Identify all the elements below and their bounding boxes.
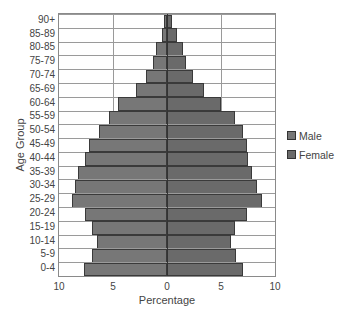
y-tick-label: 85-89 bbox=[29, 28, 55, 39]
y-tick-label: 60-64 bbox=[29, 97, 55, 108]
female-bar bbox=[167, 235, 231, 249]
legend: MaleFemale bbox=[287, 126, 334, 164]
male-bar bbox=[84, 263, 167, 277]
x-tick-label: 0 bbox=[164, 281, 170, 292]
female-bar bbox=[167, 221, 235, 235]
y-tick-label: 90+ bbox=[38, 14, 55, 25]
y-tick-label: 15-19 bbox=[29, 221, 55, 232]
legend-swatch-icon bbox=[287, 150, 296, 159]
male-bar bbox=[156, 42, 167, 56]
legend-label: Female bbox=[299, 149, 334, 161]
male-bar bbox=[92, 249, 167, 263]
y-tick-label: 10-14 bbox=[29, 235, 55, 246]
male-bar bbox=[92, 221, 167, 235]
population-pyramid-chart: 90+85-8980-8575-7970-7465-6960-6455-5950… bbox=[0, 0, 337, 312]
female-bar bbox=[167, 152, 248, 166]
female-bar bbox=[167, 180, 257, 194]
male-bar bbox=[146, 70, 167, 84]
male-bar bbox=[109, 111, 167, 125]
y-tick-label: 40-44 bbox=[29, 152, 55, 163]
y-tick-label: 5-9 bbox=[41, 248, 55, 259]
male-bar bbox=[118, 97, 167, 111]
y-tick-label: 75-79 bbox=[29, 55, 55, 66]
y-tick-label: 30-34 bbox=[29, 179, 55, 190]
y-tick-label: 25-29 bbox=[29, 193, 55, 204]
y-tick-label: 80-85 bbox=[29, 41, 55, 52]
female-bar bbox=[167, 42, 183, 56]
female-bar bbox=[167, 28, 177, 42]
male-bar bbox=[153, 56, 167, 70]
male-bar bbox=[89, 139, 167, 153]
male-bar bbox=[75, 180, 167, 194]
female-bar bbox=[167, 97, 221, 111]
female-bar bbox=[167, 208, 247, 222]
y-tick-label: 70-74 bbox=[29, 69, 55, 80]
female-bar bbox=[167, 125, 243, 139]
female-bar bbox=[167, 111, 235, 125]
y-tick-label: 45-49 bbox=[29, 138, 55, 149]
female-bar bbox=[167, 70, 193, 84]
y-axis-title: Age Group bbox=[14, 118, 26, 171]
male-bar bbox=[99, 125, 167, 139]
legend-swatch-icon bbox=[287, 131, 296, 140]
x-tick-label: 10 bbox=[269, 281, 280, 292]
male-bar bbox=[85, 208, 167, 222]
x-axis-title: Percentage bbox=[139, 294, 195, 306]
plot-area bbox=[58, 13, 276, 277]
male-bar bbox=[72, 194, 167, 208]
legend-label: Male bbox=[299, 130, 322, 142]
x-tick-label: 10 bbox=[53, 281, 64, 292]
male-bar bbox=[78, 166, 167, 180]
female-bar bbox=[167, 166, 252, 180]
legend-item: Male bbox=[287, 126, 334, 145]
female-bar bbox=[167, 263, 243, 277]
y-tick-label: 20-24 bbox=[29, 207, 55, 218]
x-tick-label: 5 bbox=[110, 281, 116, 292]
male-bar bbox=[136, 83, 167, 97]
female-bar bbox=[167, 56, 186, 70]
female-bar bbox=[167, 249, 236, 263]
legend-item: Female bbox=[287, 145, 334, 164]
y-tick-label: 65-69 bbox=[29, 83, 55, 94]
female-bar bbox=[167, 194, 262, 208]
male-bar bbox=[97, 235, 167, 249]
zero-axis-line bbox=[167, 14, 168, 276]
y-tick-label: 0-4 bbox=[41, 262, 55, 273]
y-tick-label: 50-54 bbox=[29, 124, 55, 135]
x-tick-label: 5 bbox=[218, 281, 224, 292]
y-tick-label: 35-39 bbox=[29, 166, 55, 177]
y-tick-label: 55-59 bbox=[29, 110, 55, 121]
female-bar bbox=[167, 139, 247, 153]
female-bar bbox=[167, 83, 204, 97]
male-bar bbox=[85, 152, 167, 166]
